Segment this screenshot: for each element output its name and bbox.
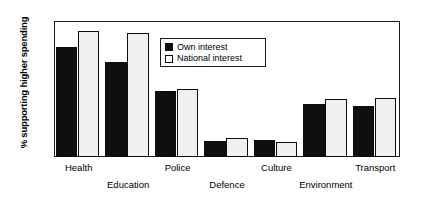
legend-item-national-interest: National interest [165, 53, 261, 65]
bar-environment-own-interest [303, 104, 325, 157]
bar-transport-own-interest [353, 106, 375, 157]
legend-item-own-interest: Own interest [165, 42, 261, 54]
bar-police-own-interest [155, 91, 177, 157]
bar-health-national-interest [78, 31, 100, 157]
x-axis-label-environment: Environment [299, 180, 352, 190]
y-axis-title: % supporting higher spending [18, 8, 29, 158]
legend-swatch-own-interest [165, 43, 173, 51]
chart-legend: Own interest National interest [160, 38, 266, 67]
x-axis-label-health: Health [65, 163, 92, 173]
bar-education-national-interest [127, 33, 149, 157]
x-axis-label-defence: Defence [209, 180, 244, 190]
bar-education-own-interest [105, 62, 127, 157]
x-axis-label-transport: Transport [355, 163, 395, 173]
bar-chart: % supporting higher spending 01020304050… [0, 0, 422, 203]
legend-label-own-interest: Own interest [177, 43, 228, 52]
legend-label-national-interest: National interest [177, 54, 242, 63]
bar-defence-national-interest [226, 138, 248, 157]
bar-police-national-interest [177, 89, 199, 157]
legend-swatch-national-interest [165, 55, 173, 63]
bar-culture-national-interest [276, 142, 298, 157]
bar-defence-own-interest [204, 141, 226, 157]
x-axis-label-education: Education [107, 180, 149, 190]
x-axis-label-culture: Culture [261, 163, 292, 173]
bar-health-own-interest [56, 47, 78, 158]
bar-transport-national-interest [375, 98, 397, 158]
x-axis-label-police: Police [165, 163, 191, 173]
bar-culture-own-interest [254, 140, 276, 157]
bar-environment-national-interest [325, 99, 347, 157]
